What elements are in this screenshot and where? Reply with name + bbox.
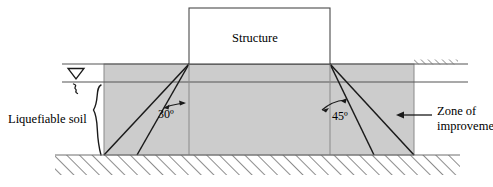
right-angle-label: 45º (332, 110, 348, 124)
zone-of-improvement-label: Zone of improvement (437, 104, 493, 134)
liquefaction-improvement-diagram: Structure Liquefiable soil 30º 45º Zone … (0, 0, 493, 187)
left-angle-label: 30º (158, 108, 174, 122)
curly-brace-icon (94, 85, 102, 155)
structure-label: Structure (232, 31, 278, 45)
diagram-canvas (0, 0, 493, 187)
ground-surface-hatch-icon (414, 60, 458, 65)
water-table-triangle-icon (68, 69, 84, 94)
liquefiable-soil-label: Liquefiable soil (8, 112, 87, 126)
bedrock-hatching-icon (55, 155, 460, 175)
zone-label-line-2: improvement (437, 119, 493, 134)
zone-label-line-1: Zone of (437, 104, 493, 119)
